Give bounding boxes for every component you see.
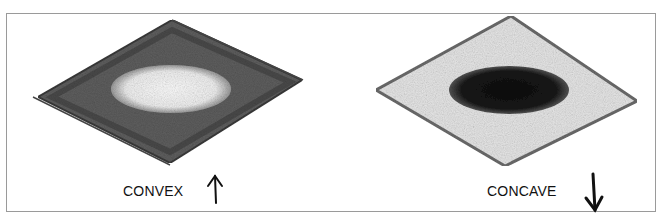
convex-diagram xyxy=(33,20,303,165)
concave-depression xyxy=(449,66,569,114)
arrow-up-icon xyxy=(208,176,222,203)
concave-diagram xyxy=(376,16,637,166)
concave-label: CONCAVE xyxy=(487,183,557,199)
illustration xyxy=(0,0,662,220)
convex-label: CONVEX xyxy=(123,183,183,199)
convex-bulge xyxy=(111,65,231,113)
arrow-down-icon xyxy=(586,174,602,210)
